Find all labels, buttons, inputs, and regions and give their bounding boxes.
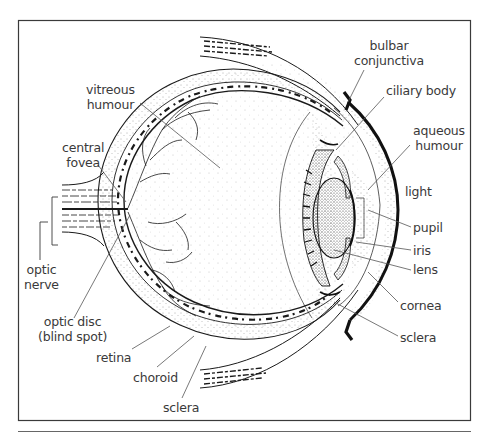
label-sclera-back: sclera (163, 400, 199, 415)
label-choroid: choroid (133, 370, 178, 385)
label-iris: iris (413, 243, 431, 258)
label-line: fovea (62, 155, 104, 170)
label-line: humour (86, 97, 135, 112)
label-cornea: cornea (400, 298, 442, 313)
label-optic-nerve: optic nerve (24, 262, 59, 292)
label-line: optic disc (38, 314, 107, 329)
label-aqueous-humour: aqueous humour (413, 123, 465, 153)
label-line: (blind spot) (38, 329, 107, 344)
label-line: bulbar (354, 38, 424, 53)
label-vitreous-humour: vitreous humour (86, 82, 135, 112)
label-line: nerve (24, 277, 59, 292)
eye-diagram: bulbar conjunctiva ciliary body aqueous … (0, 0, 493, 438)
label-pupil: pupil (413, 220, 443, 235)
label-line: vitreous (86, 82, 135, 97)
label-ciliary-body: ciliary body (386, 83, 456, 98)
label-bulbar-conjunctiva: bulbar conjunctiva (354, 38, 424, 68)
label-line: optic (24, 262, 59, 277)
label-central-fovea: central fovea (62, 140, 104, 170)
label-sclera-front: sclera (400, 330, 436, 345)
label-line: aqueous (413, 123, 465, 138)
label-line: central (62, 140, 104, 155)
label-optic-disc: optic disc (blind spot) (38, 314, 107, 344)
label-light: light (405, 184, 432, 199)
label-lens: lens (413, 262, 438, 277)
label-line: conjunctiva (354, 53, 424, 68)
label-line: humour (413, 138, 465, 153)
label-retina: retina (96, 350, 131, 365)
lens (313, 178, 355, 258)
